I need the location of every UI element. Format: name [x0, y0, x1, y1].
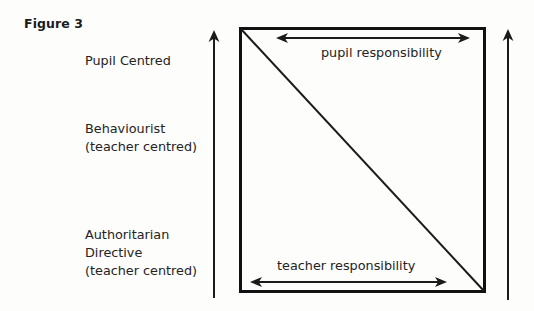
diagram-drawing-layer	[0, 0, 534, 311]
right-upward-axis-arrow	[503, 29, 514, 300]
diagonal-divider-line	[241, 29, 484, 291]
figure-container: Figure 3 Pupil Centred Behaviourist (tea…	[0, 0, 534, 311]
label-teacher-responsibility: teacher responsibility	[277, 258, 415, 273]
pupil-responsibility-arrow	[276, 33, 470, 43]
label-pupil-responsibility: pupil responsibility	[321, 45, 442, 60]
left-upward-axis-arrow	[209, 30, 220, 298]
teacher-responsibility-arrow	[250, 277, 447, 287]
